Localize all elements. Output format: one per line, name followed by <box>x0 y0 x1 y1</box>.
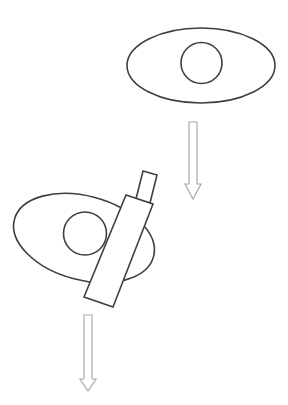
diagram-canvas <box>0 0 288 405</box>
bottom-figure <box>4 171 165 307</box>
small-rectangle-shape <box>136 171 157 203</box>
down-arrow-icon <box>80 315 96 391</box>
top-circle-shape <box>181 43 222 84</box>
diagram-svg <box>0 0 288 405</box>
top-ellipse-shape <box>127 28 275 103</box>
top-figure <box>127 28 275 103</box>
down-arrow-icon <box>185 122 201 199</box>
